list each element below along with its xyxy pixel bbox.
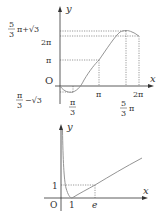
bottom-curve — [63, 130, 143, 198]
y-pi: π — [46, 56, 51, 65]
top-origin-label: O — [45, 75, 53, 86]
x-5pi3-rest: π — [129, 104, 134, 113]
x-pi3-den: 3 — [70, 108, 75, 117]
y-max-den: 3 — [9, 30, 14, 39]
top-y-label: y — [65, 3, 72, 14]
top-curve — [60, 31, 139, 93]
figure-canvas: y x O 5 3 π+√3 2π π π 3 −√3 π 3 π 5 3 π … — [0, 0, 161, 211]
x-pi3-num: π — [70, 98, 75, 107]
bottom-y-arrow-icon — [59, 124, 63, 130]
y-min-num: π — [17, 91, 22, 100]
bottom-origin-label: O — [50, 200, 57, 210]
bottom-graph: y x O 1 1 e — [44, 121, 149, 211]
bottom-x-tick-one: 1 — [69, 200, 75, 210]
x-pi: π — [96, 90, 101, 99]
x-5pi3-den: 3 — [121, 109, 126, 118]
y-min-den: 3 — [17, 101, 22, 110]
x-two-pi: 2π — [133, 90, 143, 99]
top-y-arrow-icon — [58, 6, 62, 12]
top-x-arrow-icon — [148, 84, 154, 88]
x-5pi3-num: 5 — [121, 99, 126, 108]
top-x-label: x — [150, 73, 156, 84]
y-two-pi: 2π — [41, 38, 51, 47]
bottom-y-tick-one: 1 — [52, 181, 58, 191]
bottom-y-label: y — [66, 121, 73, 132]
top-graph: y x O 5 3 π+√3 2π π π 3 −√3 π 3 π 5 3 π … — [8, 3, 156, 118]
bottom-x-tick-e: e — [92, 200, 97, 210]
y-min-rest: −√3 — [25, 96, 42, 105]
y-max-rest: π+√3 — [17, 25, 39, 34]
top-guide-lines — [60, 31, 139, 92]
bottom-x-label: x — [143, 185, 149, 196]
bottom-x-arrow-icon — [142, 196, 148, 200]
y-max-num: 5 — [9, 20, 14, 29]
